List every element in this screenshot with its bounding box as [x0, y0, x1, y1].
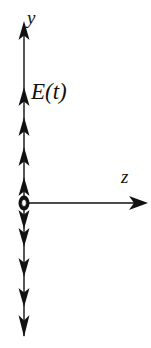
y-axis-label: y — [27, 8, 35, 27]
z-axis-label: z — [121, 167, 128, 186]
origin-marker-circle — [22, 199, 27, 206]
polarization-figure: y E(t) z — [0, 0, 151, 348]
electric-field-label: E(t) — [31, 80, 67, 103]
